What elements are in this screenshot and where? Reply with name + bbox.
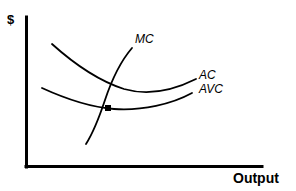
- cost-curve-diagram: $ Output MC AC AVC: [0, 0, 296, 191]
- chart-canvas: [0, 0, 296, 191]
- ac-curve-label: AC: [199, 69, 216, 82]
- mc-avc-intersection-point: [105, 105, 111, 111]
- y-axis-label: $: [7, 13, 14, 27]
- avc-curve-label: AVC: [199, 83, 223, 96]
- mc-curve: [86, 48, 132, 144]
- x-axis-label: Output: [233, 170, 279, 186]
- mc-curve-label: MC: [135, 33, 154, 46]
- ac-curve: [52, 44, 196, 92]
- avc-curve: [42, 88, 192, 109]
